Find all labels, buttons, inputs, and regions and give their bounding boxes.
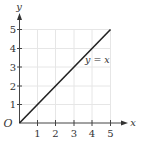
y-tick-2: 2 — [10, 81, 16, 92]
chart: 1 2 3 4 5 1 2 3 4 5 O x y y = x — [0, 0, 143, 146]
origin-label: O — [3, 117, 12, 130]
x-axis-arrow-icon — [121, 121, 128, 126]
x-tick-1: 1 — [34, 128, 40, 139]
y-tick-4: 4 — [10, 43, 16, 54]
y-axis-arrow-icon — [17, 13, 22, 20]
y-axis-label: y — [15, 1, 22, 12]
x-tick-3: 3 — [71, 128, 77, 139]
y-tick-5: 5 — [10, 24, 16, 35]
y-tick-3: 3 — [10, 62, 16, 73]
x-tick-2: 2 — [52, 128, 58, 139]
x-tick-4: 4 — [89, 128, 95, 139]
curve-label: y = x — [84, 54, 110, 65]
x-axis-label: x — [130, 117, 136, 128]
line-y-equals-x — [20, 30, 111, 124]
x-tick-5: 5 — [107, 128, 113, 139]
y-tick-1: 1 — [10, 99, 16, 110]
